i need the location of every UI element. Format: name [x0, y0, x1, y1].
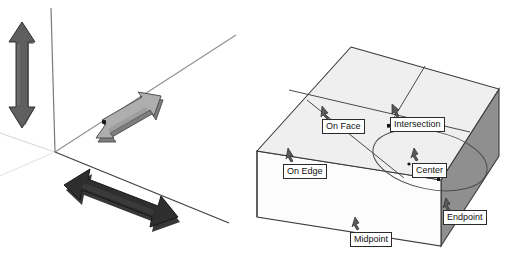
label-on-edge[interactable]: On Edge [283, 164, 327, 179]
vertical-double-arrow [9, 22, 35, 128]
label-on-face[interactable]: On Face [322, 119, 365, 134]
label-intersection[interactable]: Intersection [390, 117, 445, 132]
inference-point-dot [102, 120, 106, 124]
label-midpoint[interactable]: Midpoint [350, 232, 392, 247]
diagram-canvas: On Face Intersection On Edge Center Endp… [0, 0, 514, 269]
horizontal-double-arrow [64, 169, 180, 232]
label-center[interactable]: Center [412, 163, 447, 178]
label-endpoint[interactable]: Endpoint [443, 210, 487, 225]
axis-line-vertical [51, 8, 55, 152]
vertical-arrow-highlight [17, 44, 20, 105]
diagram-vector-layer [0, 0, 514, 269]
snap-marker-endpoint [437, 178, 440, 181]
diagonal-arrow-body [96, 92, 161, 138]
snap-marker-center [407, 162, 410, 165]
faint-guide-left [0, 133, 55, 152]
faint-guide-lower-left [0, 152, 55, 176]
diagonal-double-arrow [96, 92, 163, 142]
vertical-arrow-body [9, 22, 35, 128]
